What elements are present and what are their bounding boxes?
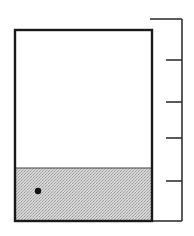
measuring-scale [150, 19, 182, 221]
container [15, 30, 152, 221]
particle-dot [35, 188, 41, 194]
diagram-canvas [0, 0, 194, 236]
fill-region [15, 168, 152, 221]
